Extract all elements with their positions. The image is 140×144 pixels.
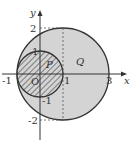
x-tick-3: 3 [106,75,112,86]
origin-label: O [31,76,39,87]
y-tick-2: 2 [30,23,36,34]
region-p-label: P [45,59,53,70]
labels-layer: x y O -1 1 3 2 1 -1 -2 P Q [0,0,140,144]
x-tick-neg1: -1 [2,75,12,86]
y-tick-neg1: -1 [42,95,52,106]
region-q-label: Q [76,56,84,67]
y-tick-1: 1 [32,46,38,57]
y-axis-label: y [29,7,36,18]
y-tick-neg2: -2 [28,115,38,126]
x-axis-label: x [124,75,130,86]
x-tick-1: 1 [64,75,70,86]
